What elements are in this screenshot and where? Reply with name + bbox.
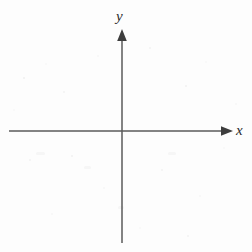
axes-drawing — [0, 0, 252, 252]
y-axis-arrowhead-icon — [117, 29, 127, 41]
x-axis-label: x — [236, 123, 243, 138]
y-axis-label: y — [116, 9, 123, 24]
coordinate-plane-figure: y x — [0, 0, 252, 252]
x-axis-arrowhead-icon — [221, 126, 233, 136]
